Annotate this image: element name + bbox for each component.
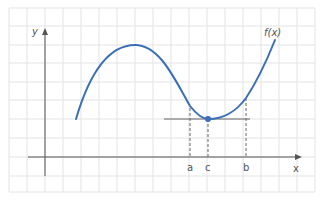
minimum-point [205, 116, 211, 122]
y-axis-arrow-icon [42, 28, 48, 35]
y-axis-label: y [31, 26, 39, 37]
point-label-a: a [187, 162, 193, 173]
function-curve [76, 40, 275, 119]
x-axis-arrow-icon [295, 154, 302, 160]
point-label-c: c [205, 162, 211, 173]
function-label: f(x) [264, 27, 281, 38]
point-label-b: b [243, 162, 249, 173]
function-diagram: f(x) y x a c b [0, 0, 323, 200]
axes [28, 34, 296, 176]
x-axis-label: x [293, 163, 299, 174]
